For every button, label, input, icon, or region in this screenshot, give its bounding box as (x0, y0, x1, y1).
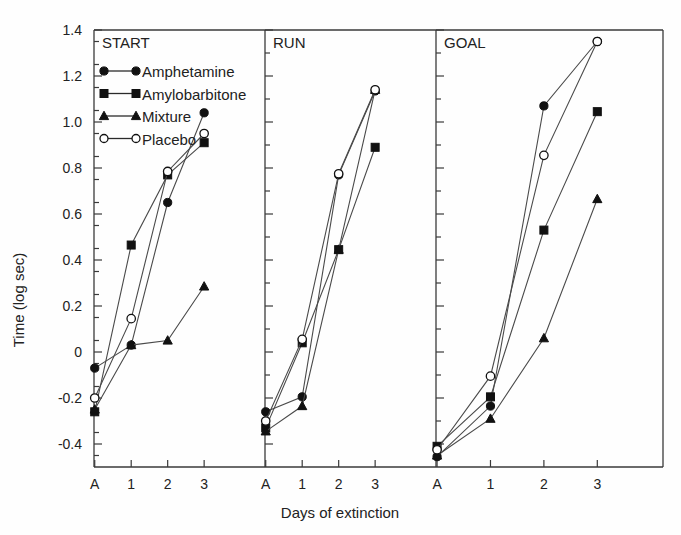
series-polyline (437, 112, 597, 447)
legend-label: Amylobarbitone (142, 86, 246, 103)
x-tick-label: 2 (164, 476, 172, 492)
legend-marker (100, 90, 108, 98)
series-mixture (432, 194, 601, 459)
panel-title: RUN (273, 34, 306, 51)
panel-title: START (102, 34, 150, 51)
x-tick-label: A (261, 476, 271, 492)
x-tick-label: 3 (200, 476, 208, 492)
legend-item-mixture: Mixture (99, 108, 191, 125)
data-point-marker (200, 129, 208, 137)
data-point-marker (540, 226, 548, 234)
legend-label: Placebo (142, 131, 196, 148)
y-tick-label: 1.4 (63, 22, 83, 38)
data-point-marker (164, 198, 172, 206)
x-tick-label: 2 (335, 476, 343, 492)
series-placebo (433, 37, 602, 454)
panel-goal: GOALA123 (432, 34, 602, 492)
x-axis-title-text: Days of extinction (281, 504, 399, 521)
series-polyline (437, 42, 597, 457)
data-point-marker (298, 401, 307, 409)
legend-marker (132, 135, 140, 143)
series-polyline (437, 42, 597, 450)
y-tick-label: 1.2 (63, 68, 83, 84)
data-point-marker (127, 241, 135, 249)
data-point-marker (486, 372, 494, 380)
data-point-marker (540, 151, 548, 159)
series-polyline (266, 91, 375, 412)
data-point-marker (371, 143, 379, 151)
data-point-marker (593, 194, 602, 202)
x-tick-label: 1 (487, 476, 495, 492)
panel-title: GOAL (444, 34, 486, 51)
series-placebo (91, 129, 209, 402)
data-point-marker (486, 402, 494, 410)
y-tick-label: -0.2 (58, 390, 82, 406)
data-point-marker (200, 139, 208, 147)
legend-marker (132, 67, 140, 75)
series-amphetamine (433, 37, 601, 460)
data-point-marker (334, 170, 342, 178)
series-polyline (95, 143, 204, 412)
data-point-marker (593, 37, 601, 45)
series-polyline (95, 286, 204, 409)
x-tick-label: A (90, 476, 100, 492)
x-axis-title: Days of extinction (281, 504, 399, 521)
data-point-marker (91, 394, 99, 402)
legend-marker (132, 90, 140, 98)
x-tick-label: 3 (593, 476, 601, 492)
series-polyline (266, 90, 375, 421)
panel-run: RUNA123 (261, 34, 380, 492)
series-amphetamine (262, 87, 380, 416)
y-tick-label: 0.2 (63, 298, 83, 314)
x-tick-label: 2 (540, 476, 548, 492)
data-point-marker (200, 109, 208, 117)
panel-start: STARTA123 (90, 34, 209, 492)
data-point-marker (163, 167, 171, 175)
legend-marker (100, 135, 108, 143)
data-point-marker (539, 333, 548, 341)
series-amylobarbitone (433, 108, 601, 451)
legend-label: Mixture (142, 108, 191, 125)
data-point-marker (540, 102, 548, 110)
multi-panel-line-chart: Time (log sec) Days of extinction 1.41.2… (0, 0, 681, 535)
series-amylobarbitone (91, 139, 208, 416)
data-point-marker (486, 414, 495, 422)
x-tick-label: 1 (127, 476, 135, 492)
legend-marker (100, 67, 108, 75)
chart-figure: Time (log sec) Days of extinction 1.41.2… (0, 0, 681, 535)
data-point-marker (200, 282, 209, 290)
data-point-marker (127, 314, 135, 322)
series-polyline (266, 90, 375, 432)
data-point-marker (371, 86, 379, 94)
y-axis-title: Time (log sec) (10, 253, 27, 347)
x-tick-label: 1 (298, 476, 306, 492)
series-mixture (261, 85, 380, 435)
data-point-marker (433, 446, 441, 454)
x-tick-label: 3 (371, 476, 379, 492)
legend-item-placebo: Placebo (100, 131, 196, 148)
series-placebo (262, 86, 380, 426)
y-tick-label: 0.8 (63, 160, 83, 176)
x-tick-label: A (432, 476, 442, 492)
y-tick-label: 0.6 (63, 206, 83, 222)
data-point-marker (91, 364, 99, 372)
legend-label: Amphetamine (142, 63, 235, 80)
series-mixture (90, 282, 209, 413)
y-tick-label: 1.0 (63, 114, 83, 130)
data-point-marker (262, 417, 270, 425)
data-point-marker (593, 108, 601, 116)
y-tick-label: -0.4 (58, 436, 82, 452)
y-tick-label: 0.4 (63, 252, 83, 268)
y-tick-label: 0 (74, 344, 82, 360)
data-point-marker (298, 335, 306, 343)
legend-item-amylobarbitone: Amylobarbitone (100, 86, 246, 103)
data-point-marker (486, 393, 494, 401)
panels-group: STARTA123RUNA123GOALA123 (90, 34, 602, 492)
legend-item-amphetamine: Amphetamine (100, 63, 235, 80)
chart-legend: AmphetamineAmylobarbitoneMixturePlacebo (99, 63, 246, 148)
y-axis-title-text: Time (log sec) (10, 253, 27, 347)
y-axis-tick-labels: 1.41.21.00.80.60.40.20-0.2-0.4 (58, 22, 82, 452)
data-point-marker (163, 336, 172, 344)
